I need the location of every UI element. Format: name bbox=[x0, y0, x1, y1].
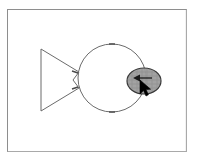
arrow-polygon-shape[interactable] bbox=[41, 49, 79, 111]
screenshot-root: Arrow Polygon Circle Ellipse (selected) … bbox=[0, 0, 197, 165]
canvas-frame bbox=[7, 9, 187, 152]
drawing-canvas[interactable] bbox=[8, 10, 187, 152]
